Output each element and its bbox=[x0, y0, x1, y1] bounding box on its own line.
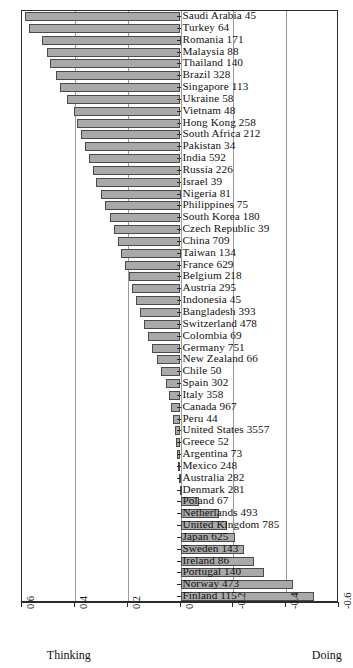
row-tick bbox=[177, 111, 181, 112]
bar bbox=[85, 142, 180, 151]
bar-row: Argentina 73 bbox=[22, 449, 337, 461]
row-tick bbox=[177, 205, 181, 206]
x-tick-label: 0 bbox=[184, 604, 195, 609]
row-tick bbox=[177, 336, 181, 337]
bar-row: Portugal 140 bbox=[22, 567, 337, 579]
row-tick bbox=[177, 348, 181, 349]
bar bbox=[114, 225, 181, 234]
row-tick bbox=[177, 501, 181, 502]
bar-row: Singapore 113 bbox=[22, 82, 337, 94]
x-tick-label: 0.6 bbox=[25, 596, 36, 609]
bar bbox=[105, 201, 180, 210]
axis-end-label-right: Doing bbox=[312, 648, 342, 663]
x-tick bbox=[21, 602, 22, 607]
row-tick bbox=[177, 466, 181, 467]
bar-rows: Saudi Arabia 45Turkey 64Romania 171Malay… bbox=[22, 11, 337, 601]
x-tick bbox=[285, 602, 286, 607]
bar-row: India 592 bbox=[22, 153, 337, 165]
row-tick bbox=[177, 430, 181, 431]
row-tick bbox=[177, 395, 181, 396]
row-tick bbox=[177, 52, 181, 53]
row-tick bbox=[177, 217, 181, 218]
bar bbox=[60, 83, 180, 92]
row-tick bbox=[177, 383, 181, 384]
row-tick bbox=[177, 158, 181, 159]
bar-row: France 629 bbox=[22, 260, 337, 272]
bar bbox=[67, 95, 181, 104]
x-tick-label: -0.6 bbox=[342, 592, 353, 609]
bar bbox=[101, 190, 180, 199]
bar bbox=[125, 261, 180, 270]
bar-row: Saudi Arabia 45 bbox=[22, 11, 337, 23]
bar bbox=[118, 237, 181, 246]
bar-row: Malaysia 88 bbox=[22, 47, 337, 59]
row-tick bbox=[177, 596, 181, 597]
x-tick-label: 0.4 bbox=[78, 596, 89, 609]
bar-row: Spain 302 bbox=[22, 378, 337, 390]
plot-area: Saudi Arabia 45Turkey 64Romania 171Malay… bbox=[21, 10, 338, 602]
bar-row: Germany 751 bbox=[22, 343, 337, 355]
row-tick bbox=[177, 442, 181, 443]
bar-row: Greece 52 bbox=[22, 437, 337, 449]
row-tick bbox=[177, 182, 181, 183]
row-tick bbox=[177, 549, 181, 550]
bar-row: Switzerland 478 bbox=[22, 319, 337, 331]
x-tick-label: 0.2 bbox=[131, 596, 142, 609]
row-tick bbox=[177, 63, 181, 64]
bar-row: Australia 282 bbox=[22, 473, 337, 485]
bar bbox=[29, 24, 181, 33]
row-tick bbox=[177, 146, 181, 147]
bar-row: Canada 967 bbox=[22, 402, 337, 414]
bar-row: Belgium 218 bbox=[22, 271, 337, 283]
row-tick bbox=[177, 513, 181, 514]
bar bbox=[89, 154, 180, 163]
axis-end-label-left: Thinking bbox=[47, 648, 91, 663]
bar-row: Czech Republic 39 bbox=[22, 224, 337, 236]
bar-row: Colombia 69 bbox=[22, 331, 337, 343]
row-tick bbox=[177, 16, 181, 17]
bar-row: Poland 67 bbox=[22, 496, 337, 508]
row-tick bbox=[177, 194, 181, 195]
bar-row: Brazil 328 bbox=[22, 70, 337, 82]
bar-row: Sweden 143 bbox=[22, 544, 337, 556]
row-tick bbox=[177, 265, 181, 266]
bar-row: Pakistan 34 bbox=[22, 141, 337, 153]
row-tick bbox=[177, 40, 181, 41]
bar bbox=[110, 213, 181, 222]
bar bbox=[132, 284, 180, 293]
row-tick bbox=[177, 324, 181, 325]
bar bbox=[96, 178, 180, 187]
bar bbox=[129, 272, 181, 281]
bar-row: Indonesia 45 bbox=[22, 295, 337, 307]
bar bbox=[144, 320, 181, 329]
bar-row: Norway 473 bbox=[22, 579, 337, 591]
bar-row: South Africa 212 bbox=[22, 129, 337, 141]
row-tick bbox=[177, 253, 181, 254]
bar bbox=[77, 119, 181, 128]
bar bbox=[42, 36, 181, 45]
row-tick bbox=[177, 525, 181, 526]
bar-row: Nigeria 81 bbox=[22, 189, 337, 201]
bar-row: Romania 171 bbox=[22, 35, 337, 47]
bar bbox=[136, 296, 181, 305]
row-tick bbox=[177, 584, 181, 585]
bar-row: Austria 295 bbox=[22, 283, 337, 295]
row-tick bbox=[177, 561, 181, 562]
row-tick bbox=[177, 454, 181, 455]
bar-row: United Kingdom 785 bbox=[22, 520, 337, 532]
bar-row: Taiwan 134 bbox=[22, 248, 337, 260]
bar-row: Thailand 140 bbox=[22, 58, 337, 70]
bar-row: China 709 bbox=[22, 236, 337, 248]
bar bbox=[74, 107, 181, 116]
bar-row: Bangladesh 393 bbox=[22, 307, 337, 319]
bar-row: South Korea 180 bbox=[22, 212, 337, 224]
bar-row: Ukraine 58 bbox=[22, 94, 337, 106]
row-tick bbox=[177, 312, 181, 313]
row-tick bbox=[177, 170, 181, 171]
bar bbox=[56, 71, 180, 80]
row-tick bbox=[177, 87, 181, 88]
bar bbox=[47, 48, 180, 57]
bar-row: Vietnam 48 bbox=[22, 106, 337, 118]
row-tick bbox=[177, 359, 181, 360]
row-tick bbox=[177, 99, 181, 100]
